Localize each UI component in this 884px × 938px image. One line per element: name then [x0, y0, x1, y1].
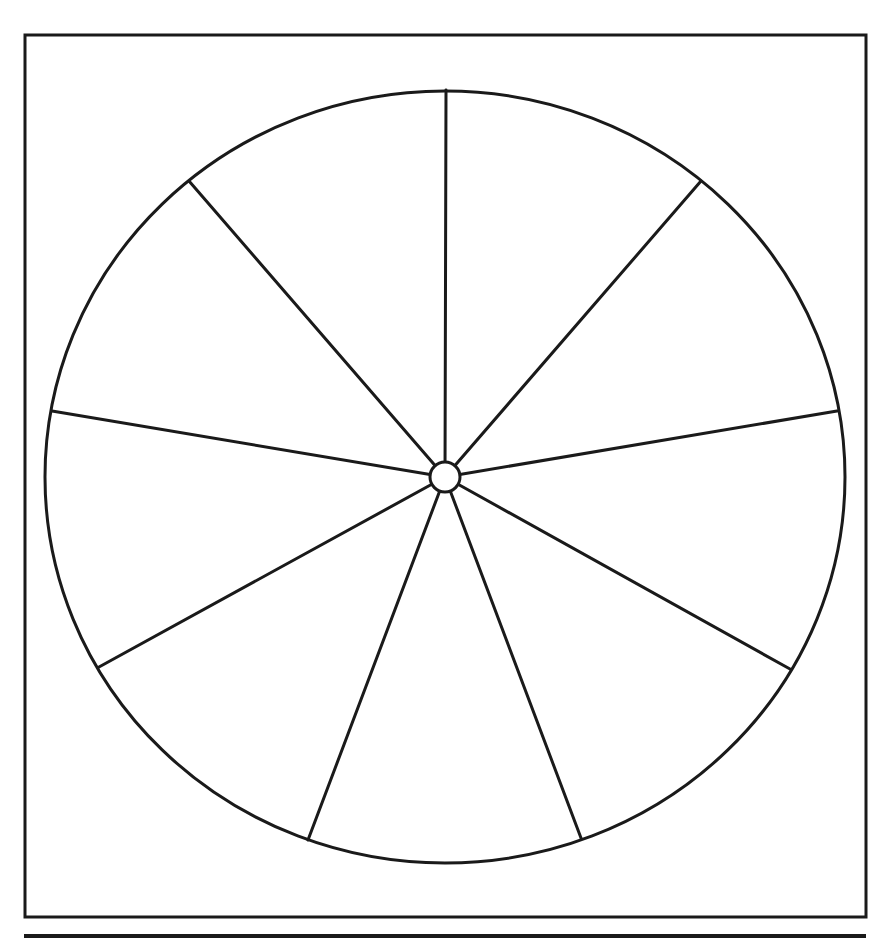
- spoke-lower-left: [99, 477, 445, 667]
- spoke-upper-right: [445, 181, 701, 477]
- center-hub: [430, 462, 460, 492]
- bottom-rule: [24, 934, 866, 938]
- spoke-bottom-left: [308, 477, 445, 840]
- worksheet-page: [0, 0, 884, 938]
- spoke-top: [445, 90, 446, 477]
- spoke-left: [52, 411, 445, 477]
- spoke-bottom-right: [445, 477, 581, 838]
- spoke-upper-left: [189, 181, 445, 477]
- spoke-lower-right: [445, 477, 790, 669]
- segmented-wheel-diagram: [0, 0, 884, 938]
- spoke-right: [445, 411, 837, 477]
